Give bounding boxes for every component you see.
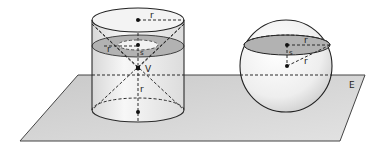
cylinder-sphere-diagram: E r r s V: [0, 0, 385, 151]
cyl-section-radius-label: r: [107, 44, 111, 54]
bottom-center-point: [136, 110, 140, 114]
sphere-radius-label: r: [304, 56, 308, 66]
section-center-point: [136, 43, 140, 47]
sphere-center: [285, 64, 289, 68]
cyl-top-radius-label: r: [150, 10, 154, 20]
cyl-section-distance-label: s: [140, 49, 144, 57]
sphere-section-radius-label: r: [304, 35, 308, 45]
sphere-section-center: [285, 43, 289, 47]
cylinder: r r s V r: [92, 8, 184, 122]
top-center-point: [136, 18, 140, 22]
apex-label: V: [145, 64, 152, 74]
cyl-height-label: r: [140, 84, 144, 94]
apex-v-point: [136, 66, 140, 70]
sphere: r s r: [240, 20, 332, 112]
plane-label: E: [349, 80, 355, 90]
sphere-section-distance-label: s: [289, 49, 293, 57]
